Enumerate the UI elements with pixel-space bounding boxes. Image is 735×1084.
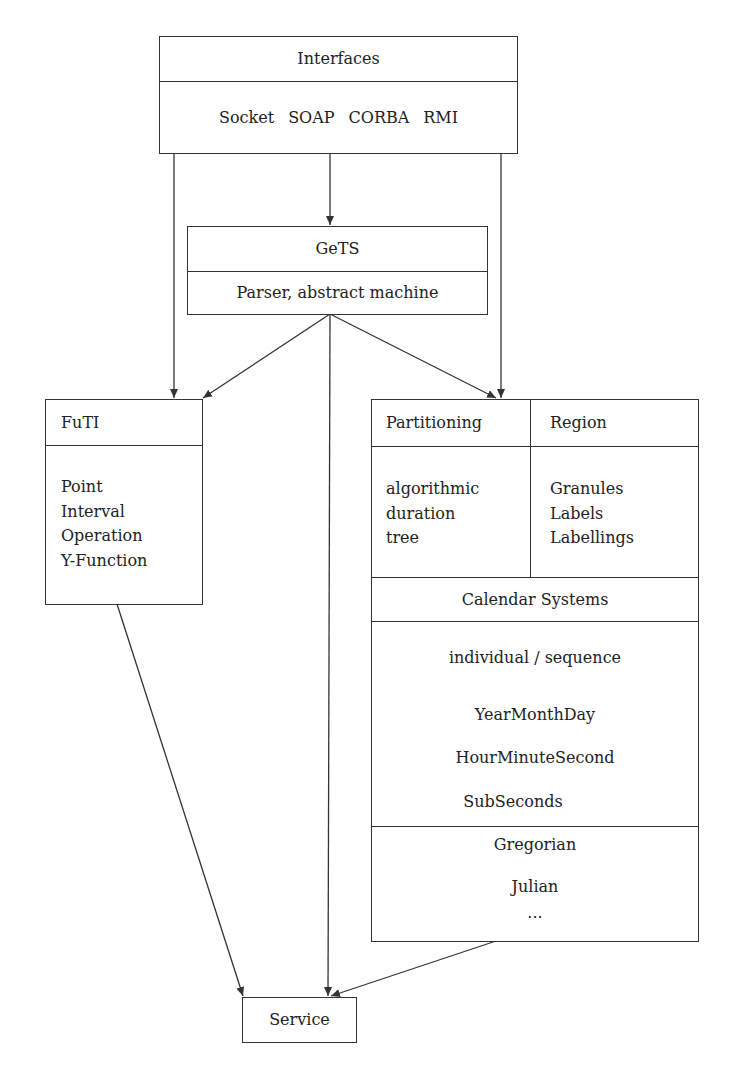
protocol-socket: Socket (219, 110, 274, 126)
interfaces-box: Interfaces Socket SOAP CORBA RMI (159, 36, 518, 154)
edge-futi-service (117, 604, 243, 996)
divider (372, 446, 698, 447)
futi-item-point: Point (61, 479, 147, 495)
interfaces-header: Interfaces (160, 37, 517, 81)
futi-item-y-function: Y-Function (61, 553, 147, 569)
calendar-systems-header: Calendar Systems (372, 578, 698, 621)
region-header: Region (550, 400, 690, 446)
calendar-systems-subseconds: SubSeconds (463, 794, 562, 810)
partitioning-item-algorithmic: algorithmic (386, 481, 479, 497)
gets-body: Parser, abstract machine (188, 272, 487, 314)
partitioning-items: algorithmic duration tree (386, 481, 479, 555)
futi-box: FuTI Point Interval Operation Y-Function (45, 399, 203, 605)
calendar-module-box: Partitioning Region algorithmic duration… (371, 399, 699, 942)
protocol-corba: CORBA (349, 110, 410, 126)
region-item-granules: Granules (550, 481, 634, 497)
region-item-labels: Labels (550, 506, 634, 522)
partitioning-item-tree: tree (386, 530, 479, 546)
partitioning-header: Partitioning (386, 400, 526, 446)
gets-title: GeTS (316, 241, 360, 257)
futi-items: Point Interval Operation Y-Function (61, 479, 147, 577)
futi-title: FuTI (61, 415, 99, 431)
region-items: Granules Labels Labellings (550, 481, 634, 555)
calendar-gregorian: Gregorian (494, 837, 576, 853)
calendar-systems-title: Calendar Systems (462, 592, 609, 608)
protocol-soap: SOAP (288, 110, 334, 126)
calendar-systems-hms: HourMinuteSecond (455, 750, 614, 766)
partitioning-title: Partitioning (386, 415, 482, 431)
edge-gets-futi (203, 314, 330, 398)
edge-gets-service (328, 314, 330, 996)
gets-header: GeTS (188, 227, 487, 271)
calendar-ellipsis: ... (527, 905, 542, 921)
protocol-rmi: RMI (423, 110, 458, 126)
service-title: Service (269, 1012, 330, 1028)
futi-header: FuTI (61, 400, 202, 445)
column-divider (530, 400, 531, 577)
calendar-julian: Julian (512, 879, 559, 895)
region-item-labellings: Labellings (550, 530, 634, 546)
interfaces-protocols: Socket SOAP CORBA RMI (160, 82, 517, 153)
calendar-systems-ymd: YearMonthDay (475, 707, 595, 723)
futi-item-operation: Operation (61, 528, 147, 544)
calendar-systems-body: individual / sequence YearMonthDay HourM… (372, 622, 698, 826)
architecture-diagram: Interfaces Socket SOAP CORBA RMI GeTS Pa… (0, 0, 735, 1084)
divider (46, 445, 202, 446)
interfaces-title: Interfaces (297, 51, 379, 67)
gets-box: GeTS Parser, abstract machine (187, 226, 488, 315)
futi-item-interval: Interval (61, 504, 147, 520)
calendar-systems-kinds: individual / sequence (449, 650, 621, 666)
calendars-body: Gregorian Julian ... (372, 827, 698, 941)
partitioning-item-duration: duration (386, 506, 479, 522)
edge-gets-module (330, 314, 496, 398)
service-box: Service (242, 997, 357, 1043)
gets-subtitle: Parser, abstract machine (237, 285, 439, 301)
region-title: Region (550, 415, 607, 431)
edge-module-service (331, 941, 496, 996)
